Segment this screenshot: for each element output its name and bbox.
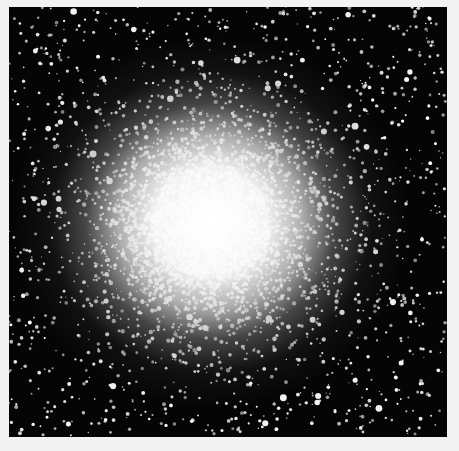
cluster-core-glow — [9, 7, 447, 437]
page — [0, 0, 459, 451]
star-cluster-photo — [9, 7, 447, 437]
